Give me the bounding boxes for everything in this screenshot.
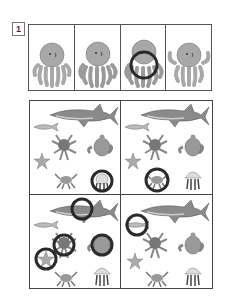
scene-panel-bottom-right[interactable] [121,195,212,289]
answer-circle-icon [34,247,58,271]
answer-circle-icon [90,233,114,257]
jellyfish-icon [183,265,203,287]
strip-cell-4[interactable] [166,25,211,90]
starfish-icon [125,153,141,169]
octopus-icon [141,133,169,161]
strip-cell-3[interactable] [121,25,167,90]
fish-icon [34,123,58,131]
shark-icon [48,103,118,127]
crab-icon [54,171,78,189]
octopus-icon [166,25,212,91]
turtle-icon [86,135,114,159]
answer-circle-icon [70,197,94,221]
strip-cell-2[interactable] [75,25,121,90]
reference-strip [28,24,212,91]
turtle-icon [177,135,205,159]
scene-panel-top-left[interactable] [30,101,121,195]
octopus-icon [50,133,78,161]
starfish-icon [127,253,143,269]
fish-icon [34,221,58,229]
fish-icon [125,123,149,131]
answer-circle-icon [121,25,167,91]
starfish-icon [34,153,50,169]
shark-icon [139,199,209,223]
jellyfish-icon [183,169,203,191]
scene-panel-top-right[interactable] [121,101,212,195]
strip-cell-1[interactable] [29,25,75,90]
octopus-icon [29,25,75,91]
octopus-icon [75,25,121,91]
scene-panel-bottom-left[interactable] [30,195,121,289]
scene-grid [29,100,213,289]
crab-icon [54,269,78,287]
answer-circle-icon [144,167,170,193]
octopus-icon [141,231,169,259]
jellyfish-icon [92,265,112,287]
shark-icon [139,103,209,127]
crab-icon [145,269,169,287]
answer-circle-icon [90,169,114,193]
item-number-label: 1 [12,22,25,36]
turtle-icon [177,233,205,257]
